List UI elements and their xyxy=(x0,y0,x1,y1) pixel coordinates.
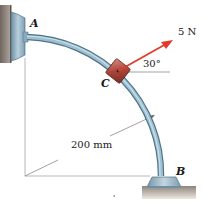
label-point-a: A xyxy=(29,17,39,30)
diagram-canvas: A C B 5 N 30° 200 mm ' xyxy=(0,0,209,205)
fixed-mount-a xyxy=(11,12,28,61)
stray-mark: ' xyxy=(113,193,115,202)
base-support-b xyxy=(142,177,196,199)
label-force: 5 N xyxy=(178,26,197,37)
label-point-c: C xyxy=(101,77,110,90)
curved-rod xyxy=(27,36,161,176)
label-point-b: B xyxy=(175,165,185,178)
construction-lines xyxy=(25,58,150,176)
label-radius: 200 mm xyxy=(71,139,113,150)
force-arrowhead-icon xyxy=(161,40,173,49)
label-angle: 30° xyxy=(143,58,161,69)
wall-support xyxy=(0,5,12,63)
